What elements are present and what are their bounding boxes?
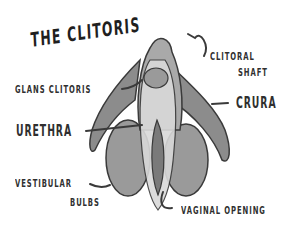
label-clitoral-shaft-line1: CLITORAL (210, 50, 255, 63)
arrow-shaft (188, 34, 206, 56)
label-glans-clitoris: GLANS CLITORIS (15, 83, 91, 96)
label-vestibular-bulbs-line1: VESTIBULAR (15, 177, 72, 190)
label-urethra: URETHRA (16, 122, 72, 140)
arrow-bulbs (90, 184, 110, 187)
label-crura: CRURA (236, 94, 277, 112)
label-clitoral-shaft-line2: SHAFT (238, 66, 268, 79)
glans (144, 68, 168, 88)
arrow-crura (212, 103, 228, 104)
label-vestibular-bulbs-line2: BULBS (70, 196, 100, 209)
label-vaginal-opening: VAGINAL OPENING (181, 204, 266, 217)
